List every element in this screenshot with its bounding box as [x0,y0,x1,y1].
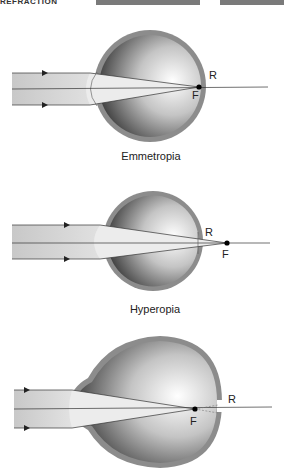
emmetropia-focus-label: F [192,89,199,101]
eye-refraction-diagram [0,0,284,472]
hyperopia-focus-label: F [222,248,229,260]
emmetropia-retina-label: R [209,69,217,81]
myopia-focus-label: F [190,415,197,427]
myopia-retina-label: R [228,393,236,405]
emmetropia-eye [12,30,268,142]
hyperopia-retina-label: R [205,226,213,238]
hyperopia-eye [12,191,270,291]
emmetropia-caption: Emmetropia [91,150,211,162]
hyperopia-caption: Hyperopia [95,303,215,315]
